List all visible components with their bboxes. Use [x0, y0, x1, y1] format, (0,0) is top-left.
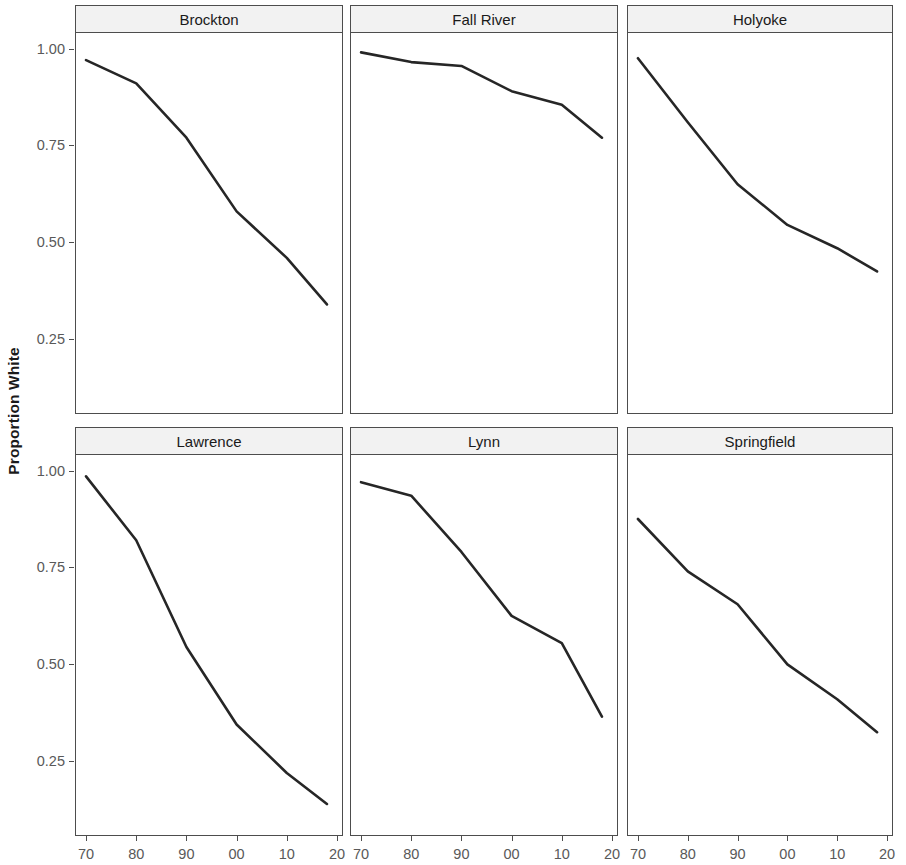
- panel-strip: Springfield: [627, 427, 893, 455]
- x-tick-label: 10: [270, 847, 304, 861]
- facet-panel-lynn: Lynn: [350, 427, 618, 836]
- y-tick-mark: [69, 567, 74, 568]
- panel-strip: Fall River: [350, 5, 618, 33]
- panel-strip: Lynn: [350, 427, 618, 455]
- x-tick-mark: [287, 836, 288, 841]
- x-tick-label: 90: [721, 847, 755, 861]
- y-tick-label: 1.00: [13, 464, 65, 478]
- x-tick-mark: [638, 836, 639, 841]
- panel-strip: Brockton: [75, 5, 343, 33]
- y-axis-title-label: Proportion White: [5, 347, 23, 474]
- y-tick-label: 0.50: [13, 235, 65, 249]
- series-line: [361, 482, 602, 717]
- x-tick-label: 80: [119, 847, 153, 861]
- x-tick-label: 20: [870, 847, 904, 861]
- y-axis-title: Proportion White: [0, 0, 28, 822]
- plot-area: [75, 454, 343, 836]
- x-tick-label: 10: [820, 847, 854, 861]
- x-tick-mark: [337, 836, 338, 841]
- series-line: [361, 52, 602, 137]
- y-tick-mark: [69, 145, 74, 146]
- series-line: [86, 476, 327, 804]
- y-tick-mark: [69, 761, 74, 762]
- x-tick-mark: [562, 836, 563, 841]
- panel-title: Lynn: [468, 434, 500, 449]
- x-tick-label: 00: [770, 847, 804, 861]
- x-tick-mark: [411, 836, 412, 841]
- plot-area: [75, 32, 343, 414]
- x-tick-label: 00: [220, 847, 254, 861]
- x-tick-mark: [461, 836, 462, 841]
- plot-area: [627, 454, 893, 836]
- facet-panel-brockton: Brockton: [75, 5, 343, 414]
- y-tick-mark: [69, 339, 74, 340]
- x-tick-label: 70: [69, 847, 103, 861]
- x-tick-mark: [361, 836, 362, 841]
- facet-panel-fall-river: Fall River: [350, 5, 618, 414]
- x-tick-mark: [237, 836, 238, 841]
- x-tick-mark: [136, 836, 137, 841]
- panel-strip: Lawrence: [75, 427, 343, 455]
- x-tick-label: 70: [621, 847, 655, 861]
- facet-line-chart: Proportion White BrocktonFall RiverHolyo…: [0, 0, 906, 865]
- x-tick-mark: [837, 836, 838, 841]
- panel-title: Springfield: [725, 434, 796, 449]
- y-tick-mark: [69, 471, 74, 472]
- x-tick-mark: [512, 836, 513, 841]
- plot-area: [350, 454, 618, 836]
- y-tick-mark: [69, 242, 74, 243]
- x-tick-label: 80: [394, 847, 428, 861]
- panel-title: Lawrence: [176, 434, 241, 449]
- panel-title: Brockton: [179, 12, 238, 27]
- x-tick-mark: [86, 836, 87, 841]
- facet-panel-lawrence: Lawrence: [75, 427, 343, 836]
- facet-panel-springfield: Springfield: [627, 427, 893, 836]
- y-tick-mark: [69, 49, 74, 50]
- panel-title: Fall River: [452, 12, 515, 27]
- y-tick-mark: [69, 664, 74, 665]
- x-tick-label: 90: [444, 847, 478, 861]
- x-tick-mark: [738, 836, 739, 841]
- x-tick-label: 70: [344, 847, 378, 861]
- x-tick-label: 80: [671, 847, 705, 861]
- x-tick-mark: [688, 836, 689, 841]
- series-line: [86, 60, 327, 304]
- y-tick-label: 0.50: [13, 657, 65, 671]
- y-tick-label: 1.00: [13, 42, 65, 56]
- panel-strip: Holyoke: [627, 5, 893, 33]
- plot-area: [627, 32, 893, 414]
- x-tick-mark: [887, 836, 888, 841]
- plot-area: [350, 32, 618, 414]
- y-tick-label: 0.75: [13, 138, 65, 152]
- x-tick-mark: [612, 836, 613, 841]
- y-tick-label: 0.75: [13, 560, 65, 574]
- y-tick-label: 0.25: [13, 332, 65, 346]
- series-line: [638, 58, 877, 271]
- panel-title: Holyoke: [733, 12, 787, 27]
- x-tick-label: 00: [495, 847, 529, 861]
- facet-panel-holyoke: Holyoke: [627, 5, 893, 414]
- x-tick-label: 90: [169, 847, 203, 861]
- x-tick-label: 10: [545, 847, 579, 861]
- x-tick-mark: [186, 836, 187, 841]
- y-tick-label: 0.25: [13, 754, 65, 768]
- x-tick-mark: [787, 836, 788, 841]
- series-line: [638, 519, 877, 732]
